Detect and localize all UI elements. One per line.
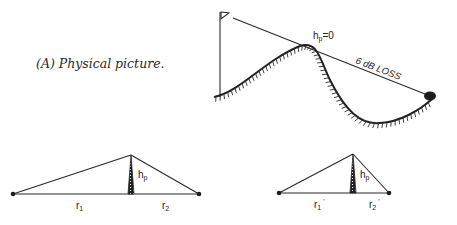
tower-icon	[350, 154, 356, 193]
hatch-mark	[287, 52, 288, 57]
right-path-2	[353, 154, 389, 193]
hatch-mark	[428, 102, 430, 107]
hatch-mark	[256, 73, 258, 78]
hatch-mark	[421, 107, 423, 112]
hatch-mark	[273, 61, 275, 66]
hatch-mark	[228, 92, 229, 97]
hatch-mark	[291, 50, 292, 55]
hatch-mark	[355, 118, 359, 121]
triangle-2: hp r1' r2'	[277, 154, 392, 211]
r2-label: r2	[162, 200, 169, 212]
hatch-mark	[326, 82, 331, 83]
flag-icon	[221, 12, 229, 19]
endpoint-right-1	[197, 192, 202, 197]
hatch-mark	[342, 106, 347, 108]
hatch-mark	[231, 90, 232, 95]
hatch-mark	[252, 76, 254, 81]
hatch-mark	[363, 121, 366, 125]
hatch-mark	[320, 70, 325, 71]
hatch-mark	[262, 68, 264, 73]
hatch-mark	[334, 96, 339, 97]
hatch-mark	[242, 83, 244, 88]
left-path-2	[279, 154, 353, 193]
hatch-mark	[259, 71, 261, 76]
r1-prime-label: r1'	[314, 198, 325, 211]
physical-picture: hp=0 6 dB LOSS	[214, 12, 436, 128]
receiver-icon	[424, 92, 436, 101]
hatch-mark	[266, 66, 268, 71]
endpoint-left-1	[11, 192, 16, 197]
hatch-mark	[239, 86, 241, 91]
hatch-mark	[298, 47, 299, 52]
hatch-mark	[386, 122, 387, 127]
hatch-mark	[269, 63, 271, 68]
hatch-mark	[345, 110, 350, 112]
hatch-mark	[330, 89, 335, 90]
hatch-mark	[235, 88, 236, 93]
hatch-mark	[339, 103, 344, 105]
diagram-canvas: (A) Physical picture. hp=0 6 dB LOSS hp …	[0, 0, 457, 225]
hatch-mark	[322, 74, 327, 75]
left-path-1	[13, 155, 131, 194]
tower-icon	[128, 155, 134, 194]
hatch-mark	[328, 85, 333, 86]
hatch-mark	[249, 78, 251, 83]
r1-label: r1	[76, 200, 83, 212]
hatch-mark	[332, 93, 337, 94]
hatch-mark	[283, 54, 284, 59]
hatch-mark	[336, 100, 341, 102]
hatch-mark	[403, 117, 404, 122]
hatch-mark	[245, 81, 247, 86]
hatch-mark	[348, 113, 353, 116]
triangle-1: hp r1 r2	[11, 155, 202, 212]
hatch-mark	[317, 62, 322, 63]
peak-label: hp=0	[313, 30, 334, 43]
endpoint-left-2	[277, 191, 282, 196]
terrain-hatching	[216, 45, 430, 128]
hatch-mark	[312, 51, 317, 53]
r2-prime-label: r2'	[369, 198, 380, 211]
figure-caption: (A) Physical picture.	[36, 56, 165, 71]
hatch-mark	[276, 59, 277, 64]
hatch-mark	[224, 94, 225, 99]
hatch-mark	[411, 114, 412, 119]
height-label-1: hp	[138, 169, 148, 182]
hatch-mark	[425, 105, 427, 110]
hatch-mark	[351, 115, 355, 118]
hatch-mark	[359, 120, 363, 124]
endpoint-right-2	[387, 191, 392, 196]
hatch-mark	[414, 112, 415, 117]
